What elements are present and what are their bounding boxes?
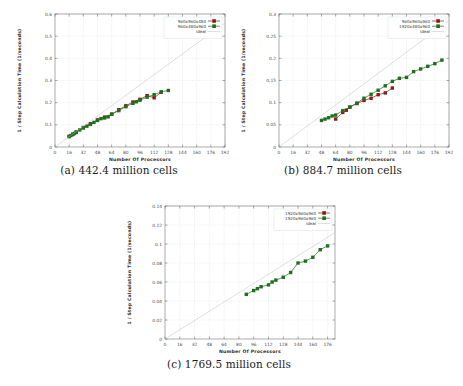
svg-text:144: 144: [402, 150, 411, 155]
svg-text:0.25: 0.25: [266, 34, 276, 39]
svg-text:16: 16: [177, 342, 183, 347]
svg-text:32: 32: [81, 150, 87, 155]
svg-text:128: 128: [388, 150, 397, 155]
svg-text:0: 0: [278, 150, 281, 155]
subcaption-c: (c) 1769.5 million cells: [118, 358, 340, 370]
svg-text:96: 96: [251, 342, 257, 347]
svg-text:112: 112: [264, 342, 273, 347]
svg-text:96: 96: [137, 150, 143, 155]
svg-text:0.14: 0.14: [152, 204, 162, 209]
svg-text:176: 176: [323, 342, 332, 347]
svg-text:0.2: 0.2: [269, 56, 276, 61]
svg-text:0.05: 0.05: [266, 122, 276, 127]
svg-text:0.12: 0.12: [152, 223, 162, 228]
svg-text:0.4: 0.4: [45, 56, 52, 61]
svg-text:64: 64: [221, 342, 227, 347]
svg-text:128: 128: [164, 150, 173, 155]
svg-text:0: 0: [164, 342, 167, 347]
svg-text:0.2: 0.2: [45, 100, 52, 105]
svg-text:48: 48: [95, 150, 101, 155]
svg-text:0: 0: [54, 150, 57, 155]
svg-text:96: 96: [361, 150, 367, 155]
chart-panel-c: 016324864809611212814416017600.020.040.0…: [118, 196, 340, 386]
svg-text:0.1: 0.1: [45, 122, 52, 127]
scaling-figure: 016324864809611212814416017619200.10.20.…: [0, 0, 463, 386]
svg-text:0.3: 0.3: [45, 78, 52, 83]
svg-text:80: 80: [236, 342, 242, 347]
svg-text:0.1: 0.1: [155, 242, 162, 247]
svg-text:48: 48: [319, 150, 325, 155]
svg-text:Number Of Processors: Number Of Processors: [219, 349, 281, 354]
svg-text:112: 112: [374, 150, 383, 155]
svg-text:0.15: 0.15: [266, 78, 276, 83]
svg-text:0.08: 0.08: [152, 261, 162, 266]
svg-text:128: 128: [279, 342, 288, 347]
svg-text:16: 16: [290, 150, 296, 155]
svg-text:0: 0: [159, 337, 162, 342]
svg-text:64: 64: [333, 150, 339, 155]
svg-text:0.5: 0.5: [45, 34, 52, 39]
chart-svg-c: 016324864809611212814416017600.020.040.0…: [118, 196, 340, 364]
svg-text:176: 176: [431, 150, 440, 155]
svg-text:1 / Step Calculation Time (1/s: 1 / Step Calculation Time (1/seconds): [127, 221, 132, 325]
svg-text:0: 0: [49, 145, 52, 150]
svg-text:176: 176: [207, 150, 216, 155]
svg-text:ideal: ideal: [196, 29, 206, 34]
chart-panel-a: 016324864809611212814416017619200.10.20.…: [8, 4, 230, 194]
svg-text:ideal: ideal: [306, 221, 316, 226]
svg-text:80: 80: [347, 150, 353, 155]
svg-text:16: 16: [66, 150, 72, 155]
svg-text:32: 32: [305, 150, 311, 155]
svg-text:64: 64: [109, 150, 115, 155]
chart-svg-b: 016324864809611212814416017619200.050.10…: [232, 4, 454, 172]
svg-text:160: 160: [416, 150, 425, 155]
svg-text:0.06: 0.06: [152, 280, 162, 285]
svg-text:0.1: 0.1: [269, 100, 276, 105]
svg-text:0.3: 0.3: [269, 12, 276, 17]
svg-text:0.6: 0.6: [45, 12, 52, 17]
subcaption-b: (b) 884.7 million cells: [232, 164, 454, 176]
svg-text:192: 192: [445, 150, 454, 155]
svg-text:144: 144: [294, 342, 303, 347]
svg-text:Number Of Processors: Number Of Processors: [333, 157, 395, 162]
plot-area-a: 016324864809611212814416017619200.10.20.…: [8, 4, 230, 172]
chart-panel-b: 016324864809611212814416017619200.050.10…: [232, 4, 454, 194]
svg-text:80: 80: [123, 150, 129, 155]
svg-text:160: 160: [309, 342, 318, 347]
plot-area-b: 016324864809611212814416017619200.050.10…: [232, 4, 454, 172]
svg-text:112: 112: [150, 150, 159, 155]
svg-text:192: 192: [221, 150, 230, 155]
subcaption-a: (a) 442.4 million cells: [8, 164, 230, 176]
svg-text:0: 0: [273, 145, 276, 150]
svg-text:1 / Step Calculation Time (1/s: 1 / Step Calculation Time (1/seconds): [17, 29, 22, 133]
svg-text:160: 160: [192, 150, 201, 155]
svg-text:0.04: 0.04: [152, 299, 162, 304]
svg-text:1 / Step Calculation Time (1/s: 1 / Step Calculation Time (1/seconds): [241, 29, 246, 133]
svg-text:0.02: 0.02: [152, 318, 162, 323]
svg-text:144: 144: [178, 150, 187, 155]
svg-text:Number Of Processors: Number Of Processors: [109, 157, 171, 162]
svg-text:48: 48: [207, 342, 213, 347]
plot-area-c: 016324864809611212814416017600.020.040.0…: [118, 196, 340, 364]
chart-svg-a: 016324864809611212814416017619200.10.20.…: [8, 4, 230, 172]
svg-text:32: 32: [192, 342, 198, 347]
svg-text:ideal: ideal: [420, 29, 430, 34]
